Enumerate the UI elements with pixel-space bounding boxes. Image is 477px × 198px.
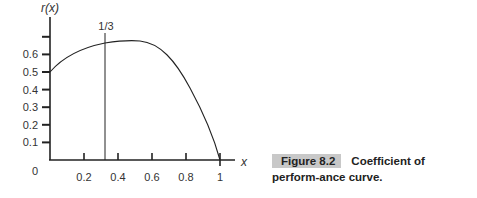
- svg-text:1: 1: [217, 171, 223, 183]
- svg-text:0.6: 0.6: [144, 171, 159, 183]
- x-axis-title: x: [240, 155, 248, 169]
- svg-text:0.4: 0.4: [110, 171, 125, 183]
- origin-label: 0: [32, 165, 38, 177]
- svg-text:0.6: 0.6: [23, 48, 38, 60]
- svg-text:0.2: 0.2: [76, 171, 91, 183]
- svg-text:0.3: 0.3: [23, 101, 38, 113]
- svg-text:0.5: 0.5: [23, 66, 38, 78]
- y-axis-title: r(x): [41, 1, 59, 15]
- figure-caption: Figure 8.2Coefficient of perform-ance cu…: [272, 153, 472, 185]
- performance-curve: [50, 41, 220, 160]
- svg-text:0.2: 0.2: [23, 119, 38, 131]
- annotation-label: 1/3: [98, 20, 113, 32]
- x-tick-labels: 0.2 0.4 0.6 0.8 1: [76, 171, 223, 183]
- svg-text:0.4: 0.4: [23, 84, 38, 96]
- y-tick-labels: 0.1 0.2 0.3 0.4 0.5 0.6: [23, 48, 38, 148]
- svg-text:0.8: 0.8: [178, 171, 193, 183]
- figure-label: Figure 8.2: [272, 154, 341, 168]
- svg-text:0.1: 0.1: [23, 136, 38, 148]
- y-ticks: [42, 37, 50, 143]
